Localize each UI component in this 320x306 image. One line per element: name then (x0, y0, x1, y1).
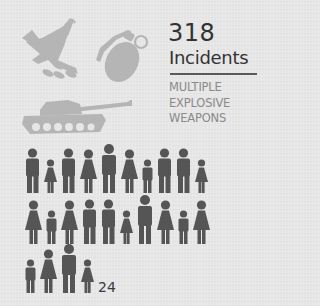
person-man-icon (100, 199, 117, 244)
person-woman-icon (192, 200, 211, 244)
person-man-icon (81, 199, 98, 244)
person-man-icon (60, 148, 77, 193)
person-woman-icon (24, 200, 43, 244)
incident-count: 318 (168, 20, 215, 46)
person-man-tall-icon (60, 244, 78, 293)
people-row: 24 (24, 246, 116, 293)
person-girl-icon (80, 259, 95, 293)
person-boy-icon (141, 159, 154, 193)
tank-icon (20, 96, 134, 136)
fighter-jet-icon (18, 16, 94, 82)
person-man-tall-icon (136, 195, 154, 244)
casualty-count: 24 (98, 280, 116, 294)
person-woman-icon (60, 200, 79, 244)
grenade-icon (92, 26, 154, 86)
person-woman-icon (79, 149, 98, 193)
person-man-tall-icon (100, 144, 118, 193)
people-row (24, 144, 211, 193)
person-girl-icon (119, 210, 134, 244)
divider (170, 73, 257, 75)
category-line: WEAPONS (169, 111, 230, 127)
person-man-icon (24, 148, 41, 193)
person-girl-icon (194, 159, 209, 193)
person-girl-icon (43, 159, 58, 193)
person-man-icon (156, 148, 173, 193)
person-woman-icon (39, 249, 58, 293)
person-woman-icon (156, 200, 175, 244)
weapon-category: MULTIPLE EXPLOSIVE WEAPONS (169, 80, 230, 127)
category-line: EXPLOSIVE (169, 96, 230, 112)
category-line: MULTIPLE (169, 80, 230, 96)
person-boy-icon (45, 210, 58, 244)
person-boy-icon (24, 259, 37, 293)
person-man-icon (175, 148, 192, 193)
incident-label: Incidents (169, 48, 248, 68)
people-row (24, 195, 213, 244)
person-boy-icon (177, 210, 190, 244)
person-woman-icon (120, 149, 139, 193)
